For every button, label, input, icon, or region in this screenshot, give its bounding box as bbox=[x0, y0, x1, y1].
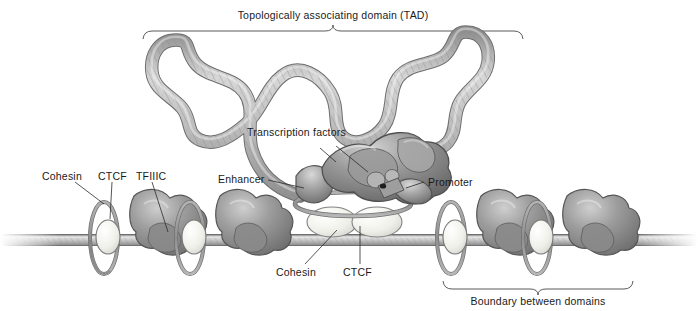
boundary-bracket bbox=[443, 281, 633, 295]
ctcf-left-leader bbox=[110, 182, 112, 219]
enhancer-label: Enhancer bbox=[218, 173, 265, 185]
tad-title-label: Topologically associating domain (TAD) bbox=[238, 9, 429, 21]
tad-chromatin-diagram: Topologically associating domain (TAD) bbox=[0, 0, 698, 311]
ctcf-oval-left-1 bbox=[96, 220, 120, 254]
promoter-label: Promoter bbox=[428, 176, 473, 188]
ctcf-center-label: CTCF bbox=[343, 266, 372, 278]
cohesin-left-label: Cohesin bbox=[42, 170, 82, 182]
boundary-unit-right-2 bbox=[523, 189, 640, 274]
boundary-unit-left-2 bbox=[176, 189, 293, 274]
ctcf-left-label: CTCF bbox=[98, 170, 127, 182]
ctcf-oval-right-2 bbox=[529, 220, 553, 254]
ctcf-oval-left-2 bbox=[182, 220, 206, 254]
transcription-factors-label: Transcription factors bbox=[247, 126, 346, 138]
boundary-title-label: Boundary between domains bbox=[471, 295, 606, 307]
ctcf-oval-right-1 bbox=[443, 220, 467, 254]
cohesin-center-label: Cohesin bbox=[276, 266, 316, 278]
cohesin-left-leader bbox=[75, 182, 104, 204]
tfiiic-left-label: TFIIIC bbox=[136, 170, 167, 182]
